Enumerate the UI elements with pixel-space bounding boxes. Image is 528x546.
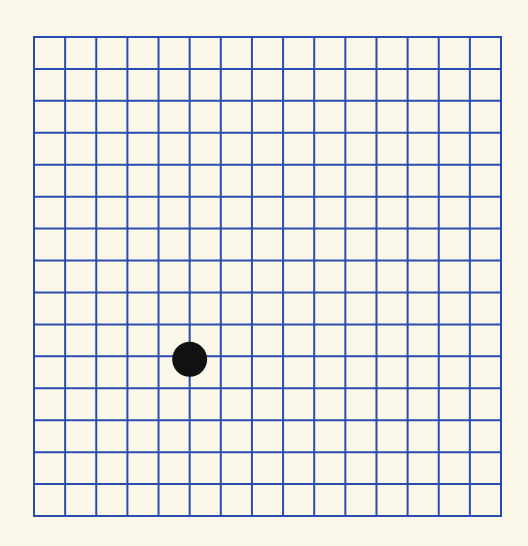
grid-lines (34, 37, 501, 516)
fixation-dot (172, 342, 207, 377)
amsler-grid (0, 0, 528, 546)
amsler-grid-canvas: Amsler grid (0, 0, 528, 546)
